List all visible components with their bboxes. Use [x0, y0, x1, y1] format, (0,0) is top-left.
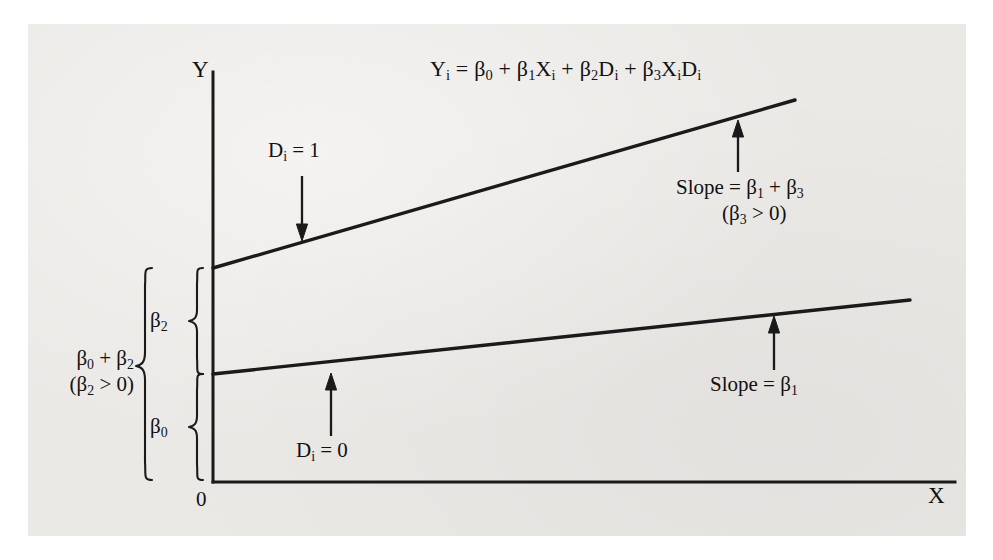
slope-condition-upper: (β3 > 0) — [722, 201, 786, 228]
regression-line-di-0 — [213, 300, 910, 374]
model-equation: Yi = β0 + β1Xi + β2Di + β3XiDi — [430, 56, 701, 84]
arrow-upper-slope — [732, 120, 743, 172]
slope-label-upper: Slope = β1 + β3 — [676, 175, 804, 202]
x-axis-label: X — [928, 482, 945, 509]
brace-label-beta0: β0 — [150, 414, 168, 441]
arrow-di-0 — [325, 373, 336, 436]
brace-condition-beta2: (β2 > 0) — [36, 372, 134, 399]
figure-root: Y X 0 Yi = β0 + β1Xi + β2Di + β3XiDi Di … — [0, 0, 993, 560]
brace-beta0-plus-beta2 — [136, 268, 152, 480]
arrow-di-1 — [296, 176, 307, 241]
origin-label: 0 — [196, 487, 207, 512]
axes-group — [213, 72, 955, 482]
brace-label-beta2: β2 — [150, 308, 168, 335]
group-label-di-0: Di = 0 — [296, 438, 348, 465]
slope-label-lower: Slope = β1 — [710, 372, 798, 399]
brace-beta2 — [189, 268, 203, 374]
brace-label-beta0-plus-beta2: β0 + β2 — [36, 346, 134, 373]
group-label-di-1: Di = 1 — [268, 138, 320, 165]
brace-beta0 — [189, 374, 203, 480]
arrow-lower-slope — [768, 316, 779, 370]
y-axis-label: Y — [192, 56, 209, 83]
